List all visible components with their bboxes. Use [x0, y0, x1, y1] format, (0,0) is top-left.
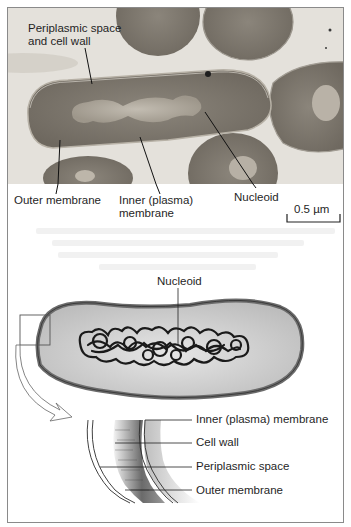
label-line: Periplasmic space	[28, 22, 121, 35]
label-periplasmic-space-cell-wall: Periplasmic space and cell wall	[28, 22, 121, 48]
label-outer-membrane: Outer membrane	[14, 194, 101, 207]
label-inner-plasma-membrane: Inner (plasma) membrane	[196, 413, 328, 426]
label-cell-wall: Cell wall	[196, 436, 239, 449]
bleed-through-text	[20, 222, 335, 282]
electron-micrograph: Periplasmic space and cell wall	[8, 8, 343, 184]
label-line: Inner (plasma)	[119, 194, 193, 207]
envelope-leader-lines	[85, 415, 205, 505]
label-outer-membrane-detail: Outer membrane	[196, 484, 283, 497]
label-nucleoid-micrograph: Nucleoid	[234, 191, 279, 204]
label-inner-membrane: Inner (plasma) membrane	[119, 194, 193, 220]
label-line: and cell wall	[28, 35, 121, 48]
label-periplasmic-space: Periplasmic space	[196, 460, 289, 473]
label-line: membrane	[119, 207, 193, 220]
